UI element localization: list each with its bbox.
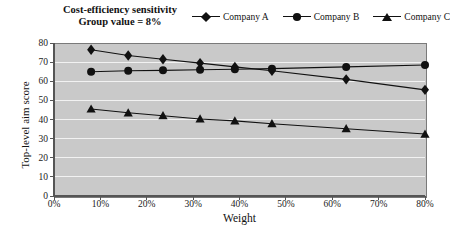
x-tick-label: 10% — [92, 199, 109, 209]
x-tick-label: 50% — [277, 199, 294, 209]
x-tick-label: 60% — [324, 199, 341, 209]
x-tick-label: 0% — [48, 199, 61, 209]
x-tick-label: 70% — [370, 199, 387, 209]
x-tick-label: 30% — [184, 199, 201, 209]
y-tick-label: 80 — [22, 38, 48, 48]
y-axis-label: Top-level aim score — [19, 55, 31, 195]
x-tick-label: 40% — [231, 199, 248, 209]
x-tick-label: 80% — [416, 199, 433, 209]
x-axis-label: Weight — [54, 212, 425, 224]
x-tick-label: 20% — [138, 199, 155, 209]
